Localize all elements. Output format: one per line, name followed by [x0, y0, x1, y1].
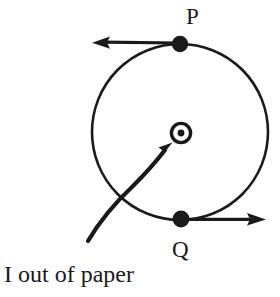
right-arrow-icon — [182, 213, 266, 226]
curved-arrow-icon — [88, 143, 173, 242]
diagram-canvas — [0, 0, 280, 297]
point-p-label: P — [186, 5, 199, 28]
circle-dot-icon — [171, 123, 190, 142]
point-q-marker — [173, 211, 190, 228]
physics-diagram-figure: P Q I out of paper — [0, 0, 280, 297]
left-arrow-icon — [92, 36, 179, 48]
current-direction-caption: I out of paper — [4, 262, 134, 286]
point-q-label: Q — [172, 238, 189, 261]
point-p-marker — [172, 36, 188, 52]
